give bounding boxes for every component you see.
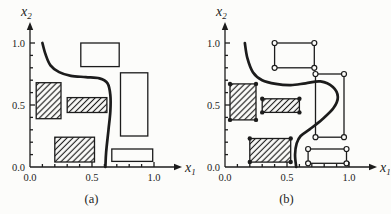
hatched-region [55, 137, 95, 162]
regions [36, 43, 153, 162]
corner-circle-marker [312, 41, 317, 46]
open-region [112, 149, 153, 161]
corner-circle-marker [342, 72, 347, 77]
figure-two-panel-plot: 0.00.51.00.00.51.0x1x2 (a) 0.00.51.00.00… [0, 0, 391, 214]
hatched-region [250, 139, 291, 163]
corner-dot-marker [289, 136, 293, 140]
corner-dot-marker [297, 97, 301, 101]
x-axis-label: x1 [184, 160, 195, 177]
corner-dot-marker [248, 160, 252, 164]
y-tick-label: 0.0 [12, 162, 25, 173]
corner-circle-marker [344, 147, 349, 152]
caption-b: (b) [189, 192, 384, 207]
corner-circle-marker [306, 147, 311, 152]
hatched-region [36, 83, 61, 119]
open-region [81, 43, 119, 67]
corner-dot-marker [228, 118, 232, 122]
x-axis-arrowhead-icon [369, 164, 377, 170]
x-tick-label: 0.5 [280, 172, 293, 183]
corner-circle-marker [344, 161, 349, 166]
corner-dot-marker [254, 118, 258, 122]
y-axis-arrowhead-icon [222, 22, 228, 30]
corner-dot-marker [289, 160, 293, 164]
corner-dot-marker [260, 97, 264, 101]
y-tick-label: 1.0 [207, 38, 220, 49]
corner-dot-marker [248, 136, 252, 140]
corner-circle-marker [342, 135, 347, 140]
y-axis-arrowhead-icon [27, 22, 33, 30]
hatched-region [67, 98, 107, 113]
open-region [121, 73, 148, 136]
y-axis-label: x2 [215, 4, 227, 21]
corner-dot-marker [228, 82, 232, 86]
y-axis-label: x2 [20, 4, 32, 21]
x-tick-label: 0.0 [23, 172, 36, 183]
corner-dot-marker [254, 82, 258, 86]
corner-circle-marker [306, 161, 311, 166]
corner-circle-marker [313, 72, 318, 77]
x-tick-label: 1.0 [342, 172, 355, 183]
panel-b: 0.00.51.00.00.51.0x1x2 (b) [195, 0, 390, 214]
corner-dot-marker [260, 110, 264, 114]
y-tick-label: 0.0 [207, 162, 220, 173]
corner-circle-marker [313, 135, 318, 140]
x-tick-label: 0.5 [85, 172, 98, 183]
x-axis-arrowhead-icon [174, 164, 182, 170]
hatched-region [262, 99, 299, 113]
regions [228, 41, 349, 166]
y-tick-label: 0.5 [12, 100, 25, 111]
corner-dot-marker [297, 110, 301, 114]
x-axis-label: x1 [379, 160, 390, 177]
x-tick-label: 1.0 [147, 172, 160, 183]
corner-circle-marker [312, 65, 317, 70]
y-tick-label: 0.5 [207, 100, 220, 111]
caption-a: (a) [0, 192, 189, 207]
y-tick-label: 1.0 [12, 38, 25, 49]
open-region [275, 43, 315, 68]
plot-a-canvas: 0.00.51.00.00.51.0x1x2 [0, 0, 195, 214]
panel-a: 0.00.51.00.00.51.0x1x2 (a) [0, 0, 195, 214]
hatched-region [230, 84, 256, 120]
corner-circle-marker [272, 41, 277, 46]
corner-circle-marker [272, 65, 277, 70]
open-region [308, 149, 346, 163]
plot-b-canvas: 0.00.51.00.00.51.0x1x2 [195, 0, 390, 214]
x-tick-label: 0.0 [218, 172, 231, 183]
